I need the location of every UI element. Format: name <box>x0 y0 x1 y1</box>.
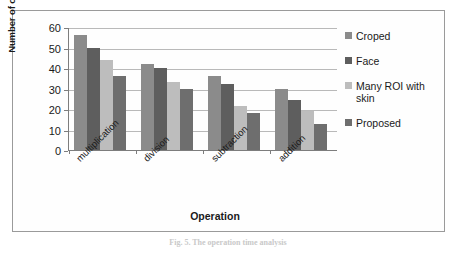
bar-group <box>270 28 337 150</box>
legend-swatch-icon <box>345 82 352 89</box>
bar[interactable] <box>113 76 126 150</box>
bar[interactable] <box>275 89 288 151</box>
legend-item[interactable]: Many ROI with skin <box>345 80 443 104</box>
legend-label: Croped <box>356 30 390 42</box>
y-tick-label: 60 <box>49 22 61 34</box>
legend-item[interactable]: Face <box>345 55 443 67</box>
y-tick-label: 30 <box>49 84 61 96</box>
bar[interactable] <box>208 76 221 150</box>
y-tick-mark <box>64 49 68 50</box>
legend-label: Face <box>356 55 379 67</box>
legend-label: Proposed <box>356 117 401 129</box>
bar[interactable] <box>74 35 87 150</box>
legend-item[interactable]: Croped <box>345 30 443 42</box>
chart-legend: CropedFaceMany ROI with skinProposed <box>345 30 443 142</box>
legend-item[interactable]: Proposed <box>345 117 443 129</box>
bar-group <box>136 28 203 150</box>
bar[interactable] <box>180 89 193 151</box>
y-tick-label: 20 <box>49 104 61 116</box>
legend-swatch-icon <box>345 57 352 64</box>
figure-container: Number of operation per iteration 010203… <box>0 0 456 254</box>
y-tick-mark <box>64 110 68 111</box>
y-tick-mark <box>64 90 68 91</box>
legend-swatch-icon <box>345 32 352 39</box>
figure-caption: Fig. 5. The operation time analysis <box>0 238 456 247</box>
y-tick-mark <box>64 28 68 29</box>
y-tick-label: 10 <box>49 125 61 137</box>
legend-label: Many ROI with skin <box>356 80 443 104</box>
y-tick-mark <box>64 69 68 70</box>
bar[interactable] <box>141 64 154 150</box>
y-tick-label: 40 <box>49 63 61 75</box>
y-tick-mark <box>64 131 68 132</box>
y-axis-title: Number of operation per iteration <box>6 0 32 54</box>
legend-swatch-icon <box>345 119 352 126</box>
y-tick-label: 50 <box>49 43 61 55</box>
x-axis-title: Operation <box>140 210 290 222</box>
y-tick-label: 0 <box>55 145 61 157</box>
x-tick-labels: multiplicationdivisionsubtractionadditio… <box>68 152 337 204</box>
bar[interactable] <box>314 124 327 150</box>
